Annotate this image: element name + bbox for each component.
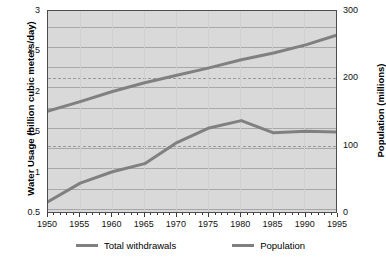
x-axis-tick-minor bbox=[99, 213, 100, 215]
x-axis-tick-minor bbox=[189, 213, 190, 215]
x-axis-tick-minor bbox=[131, 213, 132, 215]
x-axis-tick-minor bbox=[266, 213, 267, 215]
x-axis-tick-minor bbox=[169, 213, 170, 215]
x-axis-tick-minor bbox=[221, 213, 222, 215]
x-axis-tick-minor bbox=[279, 213, 280, 215]
y-axis-left-tick: 2 bbox=[14, 87, 40, 96]
x-axis-tick-major bbox=[337, 213, 338, 217]
y-axis-left-tick: 2.5 bbox=[14, 46, 40, 55]
legend-item-total-withdrawals: Total withdrawals bbox=[76, 240, 176, 251]
y-axis-left-tick: 0.5 bbox=[14, 208, 40, 217]
x-axis-tick-minor bbox=[260, 213, 261, 215]
x-axis-tick-minor bbox=[86, 213, 87, 215]
y-axis-left-tick: 1.5 bbox=[14, 127, 40, 136]
legend-label: Population bbox=[260, 240, 305, 251]
x-axis-tick-minor bbox=[285, 213, 286, 215]
x-axis-tick-minor bbox=[53, 213, 54, 215]
y-axis-right-tick: 100 bbox=[343, 141, 373, 150]
x-axis-tick-label: 1995 bbox=[320, 219, 354, 229]
x-axis-tick-major bbox=[111, 213, 112, 217]
x-axis-tick-minor bbox=[234, 213, 235, 215]
legend: Total withdrawals Population bbox=[0, 240, 381, 251]
y-axis-right-title: Population (millions) bbox=[375, 31, 386, 191]
legend-swatch-icon bbox=[232, 244, 254, 247]
x-axis-tick-minor bbox=[105, 213, 106, 215]
legend-label: Total withdrawals bbox=[104, 240, 176, 251]
x-axis-tick-minor bbox=[60, 213, 61, 215]
x-axis-tick-minor bbox=[92, 213, 93, 215]
x-axis-tick-minor bbox=[195, 213, 196, 215]
x-axis-tick-minor bbox=[247, 213, 248, 215]
y-axis-right-tick: 200 bbox=[343, 73, 373, 82]
x-axis-tick-minor bbox=[331, 213, 332, 215]
series-lines bbox=[48, 11, 337, 213]
x-axis-tick-minor bbox=[215, 213, 216, 215]
x-axis-tick-label: 1965 bbox=[127, 219, 161, 229]
x-axis-tick-major bbox=[208, 213, 209, 217]
x-axis-tick-minor bbox=[163, 213, 164, 215]
x-axis-tick-label: 1975 bbox=[191, 219, 225, 229]
y-axis-left-tick: 1 bbox=[14, 168, 40, 177]
population-line bbox=[48, 35, 337, 111]
x-axis-tick-major bbox=[79, 213, 80, 217]
x-axis-tick-major bbox=[240, 213, 241, 217]
x-axis-tick-label: 1985 bbox=[256, 219, 290, 229]
x-axis-tick-minor bbox=[253, 213, 254, 215]
x-axis-tick-minor bbox=[298, 213, 299, 215]
x-axis-tick-label: 1990 bbox=[288, 219, 322, 229]
x-axis-tick-minor bbox=[66, 213, 67, 215]
x-axis-tick-minor bbox=[202, 213, 203, 215]
x-axis-tick-label: 1970 bbox=[159, 219, 193, 229]
x-axis-tick-minor bbox=[324, 213, 325, 215]
x-axis-tick-minor bbox=[318, 213, 319, 215]
x-axis-tick-minor bbox=[73, 213, 74, 215]
plot-area bbox=[47, 10, 337, 213]
y-axis-left-tick: 3 bbox=[14, 6, 40, 15]
x-axis-tick-label: 1955 bbox=[62, 219, 96, 229]
x-axis-tick-minor bbox=[118, 213, 119, 215]
x-axis-tick-minor bbox=[124, 213, 125, 215]
x-axis-tick-minor bbox=[227, 213, 228, 215]
x-axis-tick-major bbox=[47, 213, 48, 217]
x-axis-tick-label: 1950 bbox=[30, 219, 64, 229]
x-axis-tick-minor bbox=[182, 213, 183, 215]
x-axis-tick-label: 1960 bbox=[94, 219, 128, 229]
x-axis-tick-major bbox=[144, 213, 145, 217]
x-axis-tick-minor bbox=[150, 213, 151, 215]
legend-swatch-icon bbox=[76, 244, 98, 247]
x-axis-tick-label: 1980 bbox=[223, 219, 257, 229]
total-withdrawals-line bbox=[48, 121, 337, 202]
x-axis-tick-major bbox=[305, 213, 306, 217]
x-axis-tick-minor bbox=[311, 213, 312, 215]
x-axis-tick-major bbox=[176, 213, 177, 217]
y-axis-right-tick: 0 bbox=[343, 208, 373, 217]
y-axis-right-tick: 300 bbox=[343, 6, 373, 15]
x-axis-tick-minor bbox=[292, 213, 293, 215]
x-axis-tick-major bbox=[273, 213, 274, 217]
x-axis-tick-minor bbox=[157, 213, 158, 215]
legend-item-population: Population bbox=[232, 240, 305, 251]
x-axis-tick-minor bbox=[137, 213, 138, 215]
